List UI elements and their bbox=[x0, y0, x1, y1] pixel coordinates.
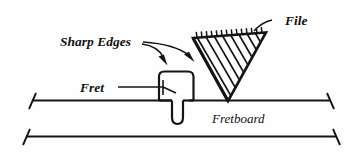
fret-leader bbox=[118, 80, 176, 95]
label-fretboard: Fretboard bbox=[211, 111, 265, 126]
label-fret: Fret bbox=[79, 80, 105, 95]
label-sharp-edges: Sharp Edges bbox=[60, 34, 131, 49]
fretboard-group bbox=[23, 93, 340, 145]
file-body-fill bbox=[193, 33, 266, 102]
label-file: File bbox=[284, 13, 308, 28]
fret-group bbox=[159, 72, 194, 125]
fret-crown-outline bbox=[159, 72, 194, 101]
sharp-edges-arrow-left bbox=[142, 44, 168, 66]
fret-filing-diagram: Sharp Edges File Fret Fretboard bbox=[0, 0, 363, 159]
figure-canvas: Sharp Edges File Fret Fretboard bbox=[0, 0, 363, 159]
fret-tang-outline bbox=[172, 101, 183, 125]
sharp-edges-arrow-right bbox=[143, 42, 195, 62]
